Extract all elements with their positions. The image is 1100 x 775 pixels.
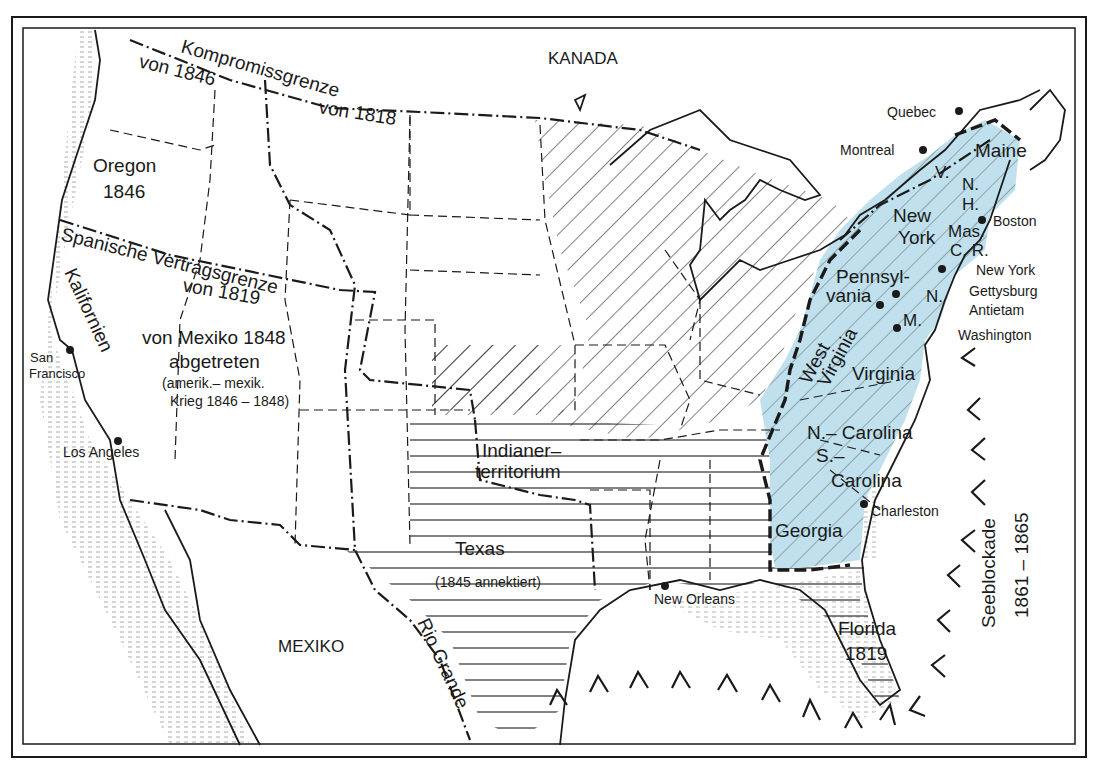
label-mexican-cession-3: (amerik.– mexik. — [162, 375, 265, 391]
label-city-los-angeles: Los Angeles — [63, 444, 139, 460]
city-dot-san-francisco — [66, 346, 74, 354]
label-texas: Texas — [455, 538, 505, 559]
label-massachusetts: Mas. — [948, 222, 985, 241]
label-pennsylvania-2: vania — [826, 285, 872, 306]
civil-war-territorial-map: KANADA MEXIKO Kompromissgrenze von 1818 … — [0, 0, 1100, 775]
label-new-york-1: New — [893, 205, 931, 226]
label-mexican-cession-1: von Mexiko 1848 — [142, 327, 286, 348]
label-mexican-cession-2: abgetreten — [169, 351, 260, 372]
label-pennsylvania-1: Pennsyl- — [836, 266, 910, 287]
label-oregon: Oregon — [93, 155, 156, 176]
label-vermont: V. — [935, 163, 950, 182]
label-texas-annexed: (1845 annektiert) — [435, 574, 541, 590]
label-city-montreal: Montreal — [840, 142, 894, 158]
label-indianerterritorium-2: territorium — [475, 461, 561, 482]
label-connecticut-ri: C. R. — [950, 241, 989, 260]
label-mexiko: MEXIKO — [278, 637, 344, 656]
city-dot-charleston — [860, 500, 868, 508]
label-new-jersey: N. — [926, 287, 943, 306]
label-city-quebec: Quebec — [887, 104, 936, 120]
city-dot-gettysburg — [892, 290, 900, 298]
label-new-hampshire-1: N. — [962, 175, 979, 194]
label-new-york-2: York — [898, 227, 936, 248]
label-city-new-york: New York — [976, 262, 1036, 278]
label-seeblockade-years: 1861 – 1865 — [1011, 512, 1032, 618]
label-new-hampshire-2: H. — [962, 195, 979, 214]
label-city-boston: Boston — [993, 213, 1037, 229]
city-dot-washington — [893, 324, 901, 332]
label-georgia: Georgia — [775, 520, 843, 541]
label-maryland: M. — [903, 311, 922, 330]
city-dot-antietam — [876, 301, 884, 309]
label-oregon-year: 1846 — [103, 181, 145, 202]
label-kalifornien: Kalifornien — [60, 265, 117, 355]
label-city-antietam: Antietam — [969, 302, 1024, 318]
label-south-carolina-2: Carolina — [831, 470, 902, 491]
city-dot-montreal — [919, 146, 927, 154]
city-dot-new-york — [938, 265, 946, 273]
label-north-carolina: N.– Carolina — [807, 422, 913, 443]
label-mexican-cession-4: Krieg 1846 – 1848) — [170, 393, 289, 409]
label-city-san-francisco-1: San — [30, 350, 53, 365]
label-city-washington: Washington — [958, 327, 1031, 343]
city-dot-quebec — [955, 107, 963, 115]
label-kanada: KANADA — [548, 49, 619, 68]
label-city-new-orleans: New Orleans — [654, 591, 735, 607]
label-von-1818: von 1818 — [317, 96, 398, 129]
label-indianerterritorium-1: Indianer– — [482, 440, 562, 461]
label-south-carolina-1: S.– — [816, 445, 845, 466]
city-dot-new-orleans — [661, 582, 669, 590]
label-florida-year: 1819 — [845, 643, 887, 664]
label-city-gettysburg: Gettysburg — [969, 283, 1037, 299]
label-virginia: Virginia — [852, 363, 915, 384]
label-seeblockade: Seeblockade — [978, 518, 999, 628]
label-city-charleston: Charleston — [871, 503, 939, 519]
label-maine: Maine — [975, 140, 1027, 161]
label-florida: Florida — [838, 618, 897, 639]
label-city-san-francisco-2: Francisco — [29, 366, 85, 381]
